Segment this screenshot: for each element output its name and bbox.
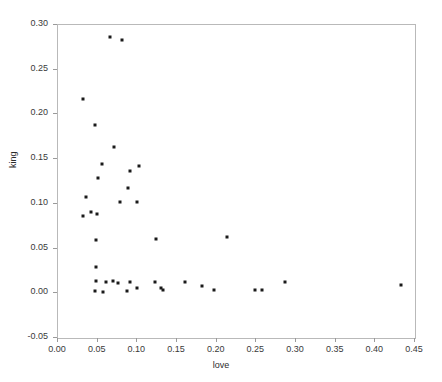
data-point [95,213,98,216]
x-tick-label: 0.00 [37,345,77,354]
data-point [128,169,131,172]
data-point [90,210,93,213]
x-tick-label: 0.45 [394,345,434,354]
data-point [97,176,100,179]
data-point [213,288,216,291]
data-point [225,235,228,238]
data-point [113,145,116,148]
data-point [109,36,112,39]
x-tick-mark [414,338,415,342]
x-tick-mark [374,338,375,342]
data-point [137,165,140,168]
data-point [183,280,186,283]
x-tick-label: 0.30 [275,345,315,354]
data-point [136,286,139,289]
data-point [82,98,85,101]
data-point [101,162,104,165]
x-tick-mark [97,338,98,342]
x-tick-label: 0.20 [196,345,236,354]
data-point [117,282,120,285]
data-point [136,200,139,203]
x-tick-mark [335,338,336,342]
x-tick-label: 0.05 [77,345,117,354]
plot-data-area [57,24,415,338]
data-point [162,288,165,291]
data-point [201,285,204,288]
x-tick-label: 0.40 [354,345,394,354]
x-tick-label: 0.10 [116,345,156,354]
x-tick-mark [176,338,177,342]
y-axis-label: king [8,151,18,168]
data-point [118,200,121,203]
x-tick-label: 0.35 [315,345,355,354]
x-tick-mark [255,338,256,342]
data-point [94,279,97,282]
scatter-plot-figure: -0.050.000.050.100.150.200.250.30 0.000.… [0,0,442,382]
data-point [85,196,88,199]
x-tick-label: 0.15 [156,345,196,354]
x-tick-mark [136,338,137,342]
x-tick-mark [216,338,217,342]
data-point [399,284,402,287]
data-point [283,280,286,283]
x-tick-label: 0.25 [235,345,275,354]
data-point [260,288,263,291]
data-point [82,215,85,218]
data-point [94,124,97,127]
x-axis-label: love [0,360,442,370]
data-point [112,279,115,282]
data-point [126,186,129,189]
data-point [105,280,108,283]
x-tick-mark [57,338,58,342]
data-point [254,289,257,292]
x-tick-mark [295,338,296,342]
data-point [102,291,105,294]
data-point [155,237,158,240]
data-point [125,290,128,293]
data-point [128,280,131,283]
data-point [121,39,124,42]
data-point [153,281,156,284]
data-point [94,290,97,293]
data-point [94,239,97,242]
data-point [94,266,97,269]
